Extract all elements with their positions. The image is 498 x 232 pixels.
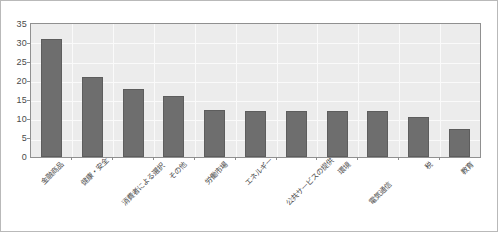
- bar-zei[interactable]: [408, 117, 429, 157]
- x-label-kokyo-service: 公共サービスの提供: [285, 181, 312, 208]
- x-tick-mark-3: [153, 157, 154, 160]
- bar-denki-tsushin[interactable]: [367, 111, 388, 157]
- bar-slot-1: [72, 24, 113, 157]
- x-label-zei: 税: [408, 161, 435, 188]
- x-tick-mark-6: [276, 157, 277, 160]
- bar-rodo-shijo[interactable]: [204, 110, 225, 158]
- bar-series: [31, 24, 480, 157]
- y-tick-label-20: 20: [5, 77, 27, 86]
- x-label-denki-tsushin: 電気通信: [367, 181, 394, 208]
- bar-slot-5: [235, 24, 276, 157]
- bar-slot-3: [153, 24, 194, 157]
- y-tick-label-30: 30: [5, 39, 27, 48]
- plot-inner: [31, 24, 480, 157]
- y-axis-tick-labels: 35 30 25 20 15 10 5 0: [1, 1, 27, 231]
- bar-energy[interactable]: [245, 111, 266, 157]
- x-tick-mark-1: [71, 157, 72, 160]
- plot-area: [30, 23, 481, 158]
- y-tick-label-0: 0: [5, 153, 27, 162]
- bar-slot-8: [358, 24, 399, 157]
- x-label-rodo-shijo: 労働市場: [203, 161, 230, 188]
- x-tick-mark-4: [194, 157, 195, 160]
- bar-slot-10: [439, 24, 480, 157]
- y-tick-label-10: 10: [5, 115, 27, 124]
- x-label-sonota: その他: [162, 161, 189, 188]
- x-axis-category-labels: 金融商品 健康・安全 消費者による選択 その他 労働市場 エネルギー 公共サービ…: [30, 161, 481, 231]
- bar-slot-4: [194, 24, 235, 157]
- y-tick-label-15: 15: [5, 96, 27, 105]
- x-tick-mark-5: [235, 157, 236, 160]
- bar-sonota[interactable]: [163, 96, 184, 157]
- x-tick-mark-7: [316, 157, 317, 160]
- bar-kinyu-shohin[interactable]: [41, 39, 62, 157]
- y-tick-label-25: 25: [5, 58, 27, 67]
- x-tick-mark-10: [439, 157, 440, 160]
- x-label-energy: エネルギー: [244, 161, 271, 188]
- x-tick-mark-8: [357, 157, 358, 160]
- bar-slot-6: [276, 24, 317, 157]
- bar-kenko-anzen[interactable]: [82, 77, 103, 157]
- x-label-kinyu-shohin: 金融商品: [39, 161, 66, 188]
- bar-kyoiku[interactable]: [449, 129, 470, 158]
- x-label-kyoiku: 教育: [449, 161, 476, 188]
- bar-slot-0: [31, 24, 72, 157]
- y-tick-label-35: 35: [5, 20, 27, 29]
- bar-chart-figure: 35 30 25 20 15 10 5 0: [1, 1, 497, 231]
- x-label-kenko-anzen: 健康・安全: [80, 161, 107, 188]
- bar-kokyo-service[interactable]: [286, 111, 307, 157]
- bar-slot-9: [398, 24, 439, 157]
- bar-kankyo[interactable]: [327, 111, 348, 157]
- chart-screenshot: 35 30 25 20 15 10 5 0: [0, 0, 498, 232]
- bar-shohisha-sentaku[interactable]: [123, 89, 144, 157]
- y-tick-label-5: 5: [5, 134, 27, 143]
- bar-slot-2: [113, 24, 154, 157]
- x-tick-mark-9: [398, 157, 399, 160]
- bar-slot-7: [317, 24, 358, 157]
- x-label-shohisha-sentaku: 消費者による選択: [121, 181, 148, 208]
- x-tick-mark-2: [112, 157, 113, 160]
